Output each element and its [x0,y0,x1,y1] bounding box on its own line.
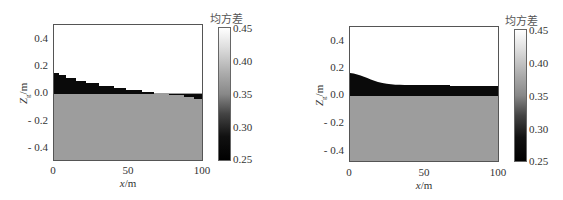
y-unit: /m [313,85,325,97]
xtick: 100 [483,167,513,178]
interface-layer-right [350,73,499,96]
x-unit: /m [421,179,433,191]
x-axis-label: x/m [404,179,444,191]
colorbar-tick: 0.40 [529,58,548,69]
y-sub: g [320,96,328,100]
xtick: 50 [409,167,439,178]
colorbar-tick: 0.25 [529,156,548,167]
ytick: - 0.2 [314,117,344,128]
chart-right: 0.4 0.2 0.0 - 0.2 - 0.4 0 50 100 x/m Zg/… [0,0,563,200]
y-axis-label: Zg/m [313,85,328,106]
ytick: 0.4 [314,35,344,46]
heatmap-right [350,27,499,162]
colorbar-tick: 0.30 [529,124,548,135]
ytick: - 0.4 [314,145,344,156]
y-var: Z [313,100,325,106]
colorbar-right [514,29,527,162]
colorbar-tick: 0.45 [529,25,548,36]
plot-area-right [349,26,499,162]
xtick: 0 [334,167,364,178]
colorbar-tick: 0.35 [529,91,548,102]
ytick: 0.2 [314,62,344,73]
